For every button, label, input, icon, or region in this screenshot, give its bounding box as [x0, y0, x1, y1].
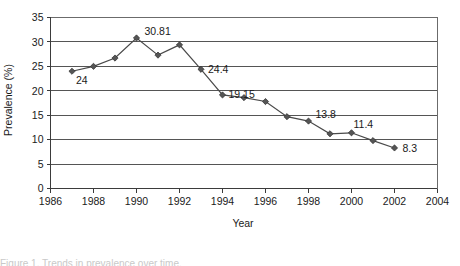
x-tick-label: 1996 [254, 195, 278, 207]
data-point-marker [348, 130, 354, 136]
data-point-label: 24 [76, 74, 88, 86]
y-axis-title: Prevalence (%) [2, 64, 14, 136]
data-point-label: 24.4 [208, 63, 229, 75]
x-tick-label: 1986 [39, 195, 63, 207]
y-tick-label: 15 [32, 109, 44, 121]
y-tick-label: 5 [38, 158, 44, 170]
data-point-label: 19.15 [229, 88, 255, 100]
y-tick-label: 30 [32, 36, 44, 48]
y-tick-label: 0 [38, 182, 44, 194]
y-tick-label: 20 [32, 85, 44, 97]
data-point-marker [370, 138, 376, 144]
data-point-labels: 2430.8124.419.1513.811.48.3 [76, 25, 417, 154]
y-tick-label: 10 [32, 133, 44, 145]
data-point-marker [327, 131, 333, 137]
plot-frame [51, 18, 438, 189]
data-point-label: 13.8 [316, 108, 337, 120]
y-axis-tick-labels: 05101520253035 [32, 11, 44, 194]
data-point-marker [69, 68, 75, 74]
x-tick-label: 2004 [426, 195, 450, 207]
chart-canvas: 05101520253035 1986198819901992199419961… [0, 0, 460, 266]
data-point-label: 30.81 [145, 25, 171, 37]
x-tick-label: 1992 [168, 195, 192, 207]
prevalence-line-chart: 05101520253035 1986198819901992199419961… [0, 0, 460, 266]
x-axis-tick-labels: 1986198819901992199419961998200020022004 [39, 195, 450, 207]
x-axis-title: Year [232, 217, 254, 229]
x-tick-label: 1994 [211, 195, 235, 207]
x-tick-label: 1998 [297, 195, 321, 207]
data-point-marker [305, 118, 311, 124]
data-point-label: 11.4 [354, 118, 374, 130]
y-tick-label: 35 [32, 11, 44, 23]
x-tick-label: 2000 [340, 195, 364, 207]
data-point-marker [90, 63, 96, 69]
x-tick-label: 1988 [82, 195, 106, 207]
x-tick-label: 2002 [383, 195, 407, 207]
data-point-marker [391, 145, 397, 151]
data-point-label: 8.3 [403, 142, 418, 154]
figure-caption-text: Figure 1. Trends in prevalence over time… [0, 258, 460, 266]
x-tick-label: 1990 [125, 195, 149, 207]
y-tick-label: 25 [32, 60, 44, 72]
figure-caption: Figure 1. Trends in prevalence over time… [0, 258, 460, 266]
